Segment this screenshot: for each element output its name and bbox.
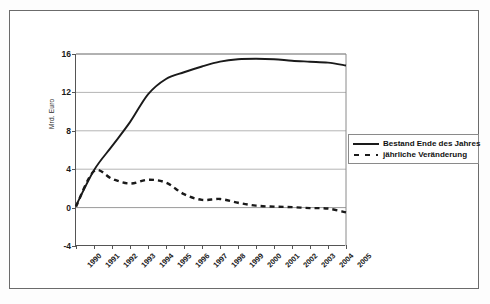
- chart-outer-frame: Mrd. Euro 1612840-4 19901991199219931994…: [9, 10, 479, 289]
- x-tick-mark: [184, 245, 185, 249]
- plot-area: 1612840-4 199019911992199319941995199619…: [75, 54, 345, 246]
- x-tick-label: 2002: [302, 252, 319, 269]
- x-tick-mark: [310, 245, 311, 249]
- gridlines: [76, 54, 346, 246]
- y-tick-label: 4: [66, 165, 71, 174]
- x-tick-label: 1992: [122, 252, 139, 269]
- x-tick-label: 1991: [104, 252, 121, 269]
- legend-dashed-line-icon: [352, 150, 380, 160]
- x-tick-label: 1994: [158, 252, 175, 269]
- x-tick-mark: [166, 245, 167, 249]
- line-chart: Mrd. Euro 1612840-4 19901991199219931994…: [10, 11, 480, 290]
- y-tick-label: 8: [66, 127, 71, 136]
- x-tick-mark: [238, 245, 239, 249]
- x-tick-label: 1995: [176, 252, 193, 269]
- plot-svg: [76, 54, 346, 246]
- x-tick-label: 1993: [140, 252, 157, 269]
- x-tick-label: 1998: [230, 252, 247, 269]
- y-tick-mark: [72, 54, 76, 55]
- x-tick-mark: [274, 245, 275, 249]
- x-tick-mark: [130, 245, 131, 249]
- x-tick-label: 2001: [284, 252, 301, 269]
- chart-legend: Bestand Ende des Jahres jährliche Veränd…: [348, 134, 479, 164]
- x-tick-label: 2004: [338, 252, 355, 269]
- x-tick-label: 1996: [194, 252, 211, 269]
- y-tick-label: -4: [63, 242, 71, 251]
- y-tick-mark: [72, 131, 76, 132]
- x-tick-mark: [76, 245, 77, 249]
- legend-label-bestand: Bestand Ende des Jahres: [383, 139, 480, 148]
- y-axis-title: Mrd. Euro: [48, 99, 55, 129]
- x-tick-mark: [292, 245, 293, 249]
- x-tick-mark: [94, 245, 95, 249]
- legend-solid-line-icon: [352, 139, 380, 149]
- series-line-2: [76, 170, 346, 212]
- series-line-1: [76, 59, 346, 206]
- x-tick-label: 1999: [248, 252, 265, 269]
- legend-item-bestand: Bestand Ende des Jahres: [352, 138, 474, 149]
- y-tick-label: 12: [62, 88, 71, 97]
- x-tick-mark: [148, 245, 149, 249]
- page-background: Mrd. Euro 1612840-4 19901991199219931994…: [0, 0, 490, 304]
- x-tick-mark: [256, 245, 257, 249]
- x-tick-label: 2003: [320, 252, 337, 269]
- series-layer: [76, 59, 346, 213]
- x-tick-mark: [220, 245, 221, 249]
- x-tick-mark: [112, 245, 113, 249]
- y-tick-mark: [72, 208, 76, 209]
- y-tick-mark: [72, 92, 76, 93]
- x-tick-label: 2005: [356, 252, 373, 269]
- legend-label-veraenderung: jährliche Veränderung: [383, 150, 467, 159]
- x-tick-mark: [202, 245, 203, 249]
- x-tick-mark: [346, 245, 347, 249]
- x-tick-label: 1990: [86, 252, 103, 269]
- x-tick-mark: [328, 245, 329, 249]
- x-tick-label: 1997: [212, 252, 229, 269]
- legend-item-veraenderung: jährliche Veränderung: [352, 149, 474, 160]
- y-tick-label: 0: [66, 203, 71, 212]
- x-tick-label: 2000: [266, 252, 283, 269]
- y-tick-mark: [72, 169, 76, 170]
- y-tick-label: 16: [62, 50, 71, 59]
